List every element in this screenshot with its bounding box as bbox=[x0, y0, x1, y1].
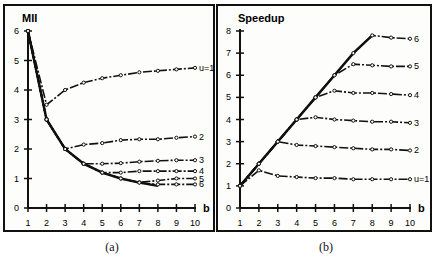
data-point bbox=[119, 139, 122, 142]
data-point bbox=[101, 142, 104, 145]
data-point bbox=[371, 64, 374, 67]
data-point bbox=[119, 177, 122, 180]
series-line-6 bbox=[28, 31, 195, 184]
data-point bbox=[193, 183, 196, 186]
y-tick-label: 4 bbox=[14, 85, 19, 95]
data-point bbox=[390, 120, 393, 123]
data-point bbox=[314, 144, 317, 147]
series-label: 4 bbox=[414, 90, 419, 100]
data-point bbox=[352, 91, 355, 94]
data-point bbox=[101, 77, 104, 80]
data-point bbox=[193, 170, 196, 173]
series-line-3 bbox=[240, 117, 410, 186]
x-tick-label: 9 bbox=[389, 218, 394, 228]
data-point bbox=[193, 135, 196, 138]
chart-b: 01234567812345678910Speedupbu=123456 bbox=[226, 12, 429, 228]
data-point bbox=[238, 184, 241, 187]
data-point bbox=[333, 89, 336, 92]
x-tick-label: 6 bbox=[332, 218, 337, 228]
data-point bbox=[352, 119, 355, 122]
data-point bbox=[314, 177, 317, 180]
data-point bbox=[175, 177, 178, 180]
y-tick-label: 6 bbox=[226, 70, 231, 80]
data-point bbox=[390, 178, 393, 181]
series-label: 6 bbox=[414, 34, 419, 44]
x-tick-label: 3 bbox=[63, 218, 68, 228]
data-point bbox=[138, 138, 141, 141]
x-tick-label: 1 bbox=[237, 218, 242, 228]
data-point bbox=[82, 143, 85, 146]
x-tick-label: 7 bbox=[137, 218, 142, 228]
y-tick-label: 0 bbox=[14, 203, 19, 213]
data-point bbox=[119, 74, 122, 77]
data-point bbox=[408, 178, 411, 181]
series-line-3 bbox=[28, 31, 195, 164]
series-label: 3 bbox=[414, 118, 419, 128]
data-point bbox=[26, 29, 29, 32]
series-line-5 bbox=[28, 31, 195, 182]
data-point bbox=[408, 37, 411, 40]
x-axis-label: b bbox=[418, 202, 425, 214]
y-tick-label: 7 bbox=[226, 48, 231, 58]
data-point bbox=[371, 120, 374, 123]
data-point bbox=[175, 136, 178, 139]
data-point bbox=[333, 177, 336, 180]
data-point bbox=[333, 74, 336, 77]
data-point bbox=[333, 146, 336, 149]
x-tick-label: 8 bbox=[370, 218, 375, 228]
data-point bbox=[257, 169, 260, 172]
data-point bbox=[257, 162, 260, 165]
series-label: 6 bbox=[199, 179, 204, 189]
data-point bbox=[45, 103, 48, 106]
y-tick-label: 5 bbox=[14, 56, 19, 66]
data-point bbox=[193, 66, 196, 69]
caption-a: (a) bbox=[92, 240, 132, 255]
y-tick-label: 2 bbox=[226, 159, 231, 169]
y-tick-label: 8 bbox=[226, 26, 231, 36]
x-tick-label: 1 bbox=[25, 218, 30, 228]
data-point bbox=[119, 171, 122, 174]
data-point bbox=[138, 170, 141, 173]
data-point bbox=[45, 118, 48, 121]
chart-a: 012345612345678910MIIbu=123456 bbox=[14, 12, 214, 228]
data-point bbox=[156, 138, 159, 141]
x-tick-label: 7 bbox=[351, 218, 356, 228]
y-axis-label: Speedup bbox=[238, 12, 285, 24]
x-tick-label: 10 bbox=[190, 218, 200, 228]
data-point bbox=[175, 183, 178, 186]
data-point bbox=[82, 81, 85, 84]
data-point bbox=[156, 159, 159, 162]
y-tick-label: 1 bbox=[226, 181, 231, 191]
x-tick-label: 4 bbox=[81, 218, 86, 228]
series-line-u=1 bbox=[240, 170, 410, 185]
data-point bbox=[64, 88, 67, 91]
data-point bbox=[193, 177, 196, 180]
data-point bbox=[371, 178, 374, 181]
series-label: 2 bbox=[199, 132, 204, 142]
x-tick-label: 2 bbox=[256, 218, 261, 228]
y-tick-label: 3 bbox=[14, 115, 19, 125]
y-tick-label: 5 bbox=[226, 92, 231, 102]
series-label: 5 bbox=[414, 61, 419, 71]
series-label: 2 bbox=[414, 145, 419, 155]
data-point bbox=[295, 175, 298, 178]
data-point bbox=[408, 65, 411, 68]
caption-b: (b) bbox=[306, 240, 346, 255]
data-point bbox=[314, 116, 317, 119]
y-tick-label: 4 bbox=[226, 115, 231, 125]
data-point bbox=[333, 118, 336, 121]
data-point bbox=[408, 94, 411, 97]
data-point bbox=[371, 91, 374, 94]
series-line-4 bbox=[28, 31, 195, 173]
data-point bbox=[101, 171, 104, 174]
x-tick-label: 2 bbox=[44, 218, 49, 228]
data-point bbox=[193, 159, 196, 162]
data-point bbox=[138, 160, 141, 163]
data-point bbox=[371, 34, 374, 37]
data-point bbox=[156, 170, 159, 173]
x-tick-label: 8 bbox=[155, 218, 160, 228]
series-label: 3 bbox=[199, 155, 204, 165]
x-tick-label: 5 bbox=[100, 218, 105, 228]
data-point bbox=[276, 174, 279, 177]
data-point bbox=[138, 71, 141, 74]
